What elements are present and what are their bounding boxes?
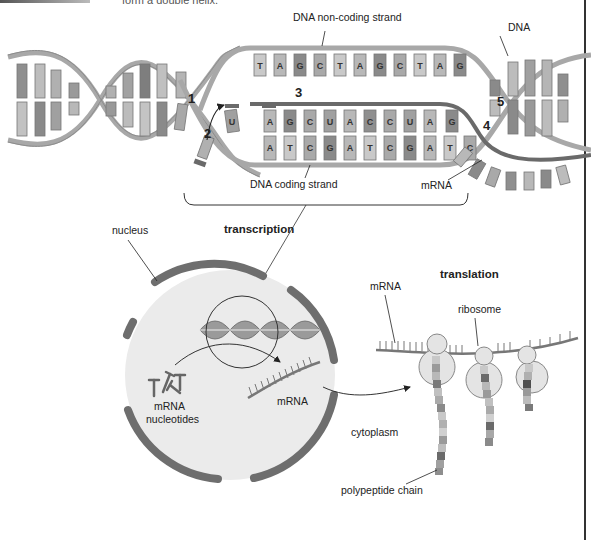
base: A: [267, 117, 274, 127]
step-number-5: 5: [497, 94, 504, 109]
base: C: [317, 61, 324, 71]
base: A: [347, 117, 354, 127]
step-number-2: 2: [204, 126, 211, 141]
label-mrna-detail: mRNA: [421, 179, 452, 191]
base: C: [387, 117, 394, 127]
base: G: [286, 117, 293, 127]
base: U: [407, 117, 414, 127]
base: U: [327, 117, 334, 127]
base: G: [448, 117, 455, 127]
label-mrna-nucleus: mRNA: [277, 395, 308, 407]
label-cytoplasm: cytoplasm: [351, 426, 399, 438]
base: T: [417, 61, 423, 71]
left-helix-backbones: [8, 48, 260, 175]
label-non-coding-strand: DNA non-coding strand: [293, 11, 402, 23]
label-nucleus: nucleus: [112, 224, 148, 236]
mrna-bases: [225, 109, 458, 132]
transcription-title: transcription: [224, 223, 294, 235]
free-nucleotide-cap: [225, 104, 239, 108]
base: G: [406, 143, 413, 153]
base: A: [357, 61, 364, 71]
mrna-exiting-bases: [453, 147, 570, 190]
label-coding-strand: DNA coding strand: [250, 178, 338, 190]
label-mrna-nucleotides-1: mRNA: [154, 400, 185, 412]
base: A: [267, 143, 274, 153]
step-number-1: 1: [188, 91, 195, 106]
cell-overview: nucleus transcription mRNA nucleotides m…: [112, 223, 578, 496]
base: T: [367, 143, 373, 153]
base: T: [287, 143, 293, 153]
base: G: [456, 61, 463, 71]
label-mrna-nucleotides-2: nucleotides: [146, 413, 199, 425]
translation-title: translation: [440, 268, 499, 280]
step-number-4: 4: [483, 118, 491, 133]
label-polypeptide-chain: polypeptide chain: [341, 484, 423, 496]
base: C: [367, 117, 374, 127]
dna-helix-detail: T A G C T A G C T A G U A: [8, 11, 591, 300]
base: G: [376, 61, 383, 71]
protein-synthesis-diagram: T A G C T A G C T A G U A: [0, 0, 591, 540]
base: U: [229, 117, 236, 127]
label-ribosome: ribosome: [458, 303, 501, 315]
label-dna: DNA: [508, 21, 530, 33]
base: A: [347, 143, 354, 153]
base: C: [307, 143, 314, 153]
base: A: [437, 61, 444, 71]
base: G: [326, 143, 333, 153]
base: A: [427, 117, 434, 127]
base: T: [447, 143, 453, 153]
base: A: [277, 61, 284, 71]
label-mrna-cytoplasm: mRNA: [370, 280, 401, 292]
base: C: [307, 117, 314, 127]
transcription-bracket: [184, 193, 468, 205]
base: G: [296, 61, 303, 71]
base: T: [337, 61, 343, 71]
base: C: [387, 143, 394, 153]
base-t: T: [257, 61, 263, 71]
base: C: [397, 61, 404, 71]
base: A: [427, 143, 434, 153]
step-number-3: 3: [295, 85, 302, 100]
